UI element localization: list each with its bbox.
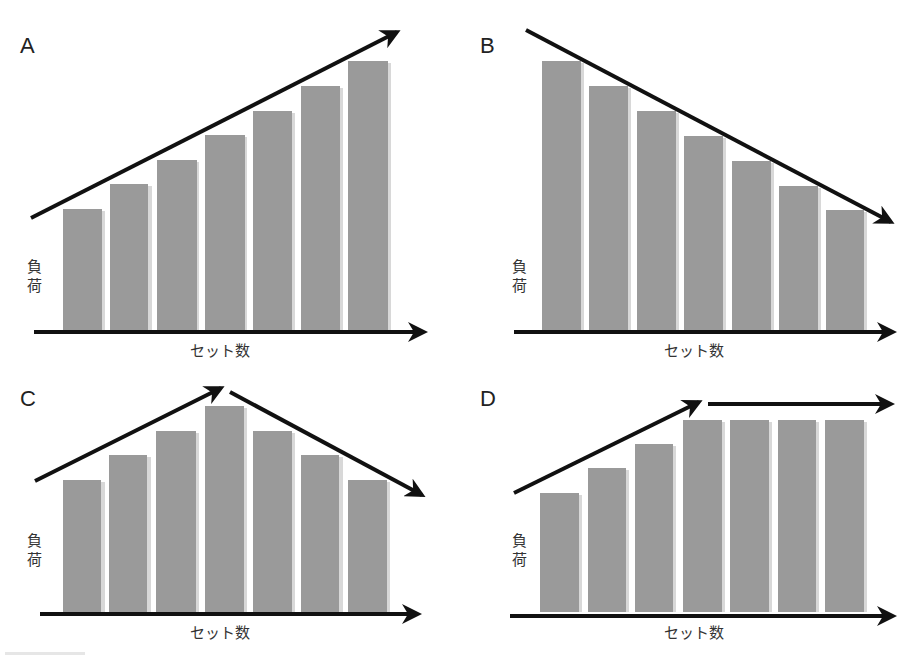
panel-letter-c: C [20,386,36,411]
bars-c [63,406,390,612]
bar [253,111,292,332]
bar [637,111,676,332]
bars-d [540,420,867,612]
panel-c: C 負 荷 セット数 [5,386,422,655]
figure-canvas: A 負 荷 セット数 B 負 荷 セット数 [0,0,904,656]
bar [588,468,626,612]
bar [684,136,723,332]
y-axis-label-char-2: 荷 [27,551,42,569]
bar [157,160,197,332]
panel-b: B 負 荷 セット数 [480,30,893,360]
y-axis-label-char-1: 負 [27,532,42,550]
y-axis-label-char-2: 荷 [512,551,527,569]
y-axis-label-char-1: 負 [27,258,42,276]
panel-a: A 負 荷 セット数 [20,32,424,360]
x-axis-label: セット数 [664,624,724,642]
bar [826,210,864,332]
bar [348,480,387,612]
bar [635,444,673,612]
bar [205,406,244,612]
panel-letter-a: A [20,33,35,58]
bar [110,184,148,332]
bar [589,86,628,332]
bar [730,420,769,612]
x-axis-label: セット数 [190,342,250,360]
scan-artifact-line [5,652,85,655]
bar [253,431,292,612]
bar [63,480,101,612]
bar [301,86,340,332]
y-axis-label-char-1: 負 [512,532,527,550]
bar [301,455,339,612]
bar [205,135,245,332]
bar [540,493,579,612]
bar [156,431,196,612]
panel-letter-d: D [480,386,496,411]
panel-letter-b: B [480,33,495,58]
bar [825,420,864,612]
bar [542,61,581,332]
bar [778,420,816,612]
bar [732,161,771,332]
bars-b [542,61,867,332]
bar [63,209,102,332]
y-axis-label-char-2: 荷 [512,277,527,295]
bar [348,61,388,332]
panel-d: D 負 荷 セット数 [480,386,893,642]
bars-a [63,61,391,332]
bar [109,455,147,612]
bar [683,420,722,612]
x-axis-label: セット数 [190,624,250,642]
x-axis-label: セット数 [664,342,724,360]
y-axis-label-char-2: 荷 [27,277,42,295]
y-axis-label-char-1: 負 [512,258,527,276]
bar [779,186,818,332]
